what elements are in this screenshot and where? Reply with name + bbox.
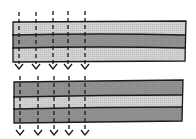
top-layer-2-dark	[13, 35, 186, 49]
bottom-layer-3-dark	[14, 107, 183, 123]
top-layer-1-light	[13, 21, 186, 35]
layer-diagram	[0, 0, 196, 139]
top-layer-3-light	[13, 48, 185, 63]
top-stack	[12, 21, 186, 62]
